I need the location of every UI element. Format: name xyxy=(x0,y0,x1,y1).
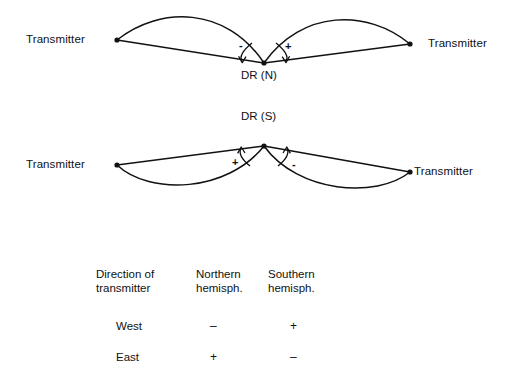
row-west-southern-value: + xyxy=(268,311,346,342)
row-east-southern-value: – xyxy=(268,342,346,373)
table-row: East + – xyxy=(96,342,346,373)
upper-right-transmitter-node xyxy=(407,41,412,46)
upper-left-transmitter-node xyxy=(114,37,119,42)
row-west-northern-value: – xyxy=(196,311,268,342)
row-west-direction: West xyxy=(96,311,196,342)
header-direction-of-transmitter: Direction of transmitter xyxy=(96,268,196,311)
upper-diagram-group xyxy=(114,17,412,66)
row-east-northern-value: + xyxy=(196,342,268,373)
lower-left-sign-plus: + xyxy=(232,157,238,168)
table-header-row: Direction of transmitter Northern hemisp… xyxy=(96,268,346,311)
header-northern-hemisphere: Northern hemisph. xyxy=(196,268,268,311)
lower-right-transmitter-label: Transmitter xyxy=(414,165,473,178)
row-east-direction: East xyxy=(96,342,196,373)
dr-south-label: DR (S) xyxy=(241,110,276,123)
table-row: West – + xyxy=(96,311,346,342)
dr-north-vertex-node xyxy=(261,60,266,65)
upper-right-transmitter-label: Transmitter xyxy=(428,37,487,50)
header-southern-hemisphere: Southern hemisph. xyxy=(268,268,346,311)
lower-right-transmitter-node xyxy=(407,169,412,174)
lower-diagram-group xyxy=(114,143,412,188)
upper-right-sign-plus: + xyxy=(285,41,291,52)
lower-left-transmitter-node xyxy=(114,162,119,167)
lower-right-sign-minus: - xyxy=(292,159,296,170)
upper-left-sign-minus: - xyxy=(239,40,243,51)
lower-right-arc-ray xyxy=(264,146,410,188)
polarity-summary-table: Direction of transmitter Northern hemisp… xyxy=(96,268,346,373)
dr-south-vertex-node xyxy=(261,143,266,148)
figure-canvas: Transmitter Transmitter - + DR (N) DR (S… xyxy=(0,0,519,388)
dr-north-label: DR (N) xyxy=(241,69,277,82)
upper-left-transmitter-label: Transmitter xyxy=(26,33,85,46)
lower-left-arc-ray xyxy=(117,146,264,185)
lower-left-transmitter-label: Transmitter xyxy=(26,158,85,171)
